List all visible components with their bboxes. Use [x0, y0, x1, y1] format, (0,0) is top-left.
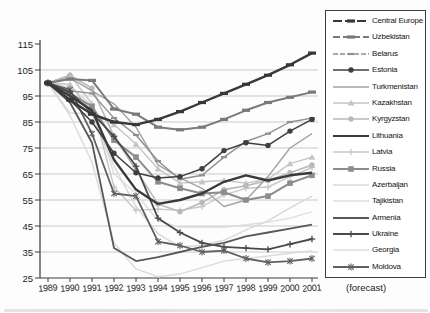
x-axis-label: 2000 — [280, 282, 300, 293]
legend-label-latvia: Latvia — [372, 148, 392, 156]
legend-item-estonia: Estonia — [332, 65, 424, 75]
y-axis-label: 105 — [17, 65, 33, 76]
x-axis-label: 1991 — [82, 282, 102, 293]
legend-label-georgia: Georgia — [372, 246, 399, 254]
legend-swatch-tajikistan — [332, 196, 370, 206]
x-axis-label: 1994 — [148, 282, 168, 293]
legend-label-central-europe: Central Europe — [372, 17, 423, 25]
x-axis-label: 1998 — [236, 282, 256, 293]
legend-label-russia: Russia — [372, 165, 395, 173]
legend-swatch-kyrgyzstan — [332, 114, 370, 124]
x-axis-label: 1989 — [38, 282, 58, 293]
legend-swatch-georgia — [332, 245, 370, 255]
legend-swatch-kazakhstan — [332, 98, 370, 108]
legend-label-armenia: Armenia — [372, 214, 400, 222]
legend-item-armenia: Armenia — [332, 213, 424, 223]
x-axis-label: 1993 — [126, 282, 146, 293]
legend-swatch-ukraine — [332, 229, 370, 239]
legend-swatch-estonia — [332, 65, 370, 75]
scan-artifact — [4, 309, 428, 312]
legend-swatch-central-europe — [332, 16, 370, 26]
y-axis-label: 55 — [22, 195, 33, 206]
legend-item-lithuania: Lithuania — [332, 131, 424, 141]
legend-label-tajikistan: Tajikistan — [372, 197, 403, 205]
legend-swatch-turkmenistan — [332, 82, 370, 92]
x-axis-label: 1990 — [60, 282, 80, 293]
legend-swatch-latvia — [332, 147, 370, 157]
legend-item-turkmenistan: Turkmenistan — [332, 82, 424, 92]
legend-swatch-uzbekistan — [332, 32, 370, 42]
legend-label-ukraine: Ukraine — [372, 230, 398, 238]
legend-swatch-russia — [332, 164, 370, 174]
legend-item-azerbaijan: Azerbaijan — [332, 180, 424, 190]
x-axis-label: 1997 — [214, 282, 234, 293]
legend-item-central-europe: Central Europe — [332, 16, 424, 26]
legend-swatch-armenia — [332, 213, 370, 223]
legend-item-kazakhstan: Kazakhstan — [332, 98, 424, 108]
legend-item-tajikistan: Tajikistan — [332, 196, 424, 206]
legend-swatch-moldova — [332, 262, 370, 272]
x-axis-label: 2001 — [302, 282, 322, 293]
legend-label-belarus: Belarus — [372, 50, 398, 58]
legend-item-moldova: Moldova — [332, 262, 424, 272]
legend-item-latvia: Latvia — [332, 147, 424, 157]
y-axis-label: 85 — [22, 117, 33, 128]
legend-label-turkmenistan: Turkmenistan — [372, 83, 418, 91]
legend: Central EuropeUzbekistanBelarusEstoniaTu… — [325, 10, 426, 278]
legend-label-estonia: Estonia — [372, 66, 397, 74]
forecast-note: (forecast) — [346, 282, 386, 293]
x-axis-label: 1995 — [170, 282, 190, 293]
scanned-chart-page: 2535455565758595105115198919901991199219… — [0, 0, 430, 313]
legend-label-kazakhstan: Kazakhstan — [372, 99, 412, 107]
legend-swatch-azerbaijan — [332, 180, 370, 190]
legend-label-azerbaijan: Azerbaijan — [372, 181, 408, 189]
y-axis-label: 95 — [22, 91, 33, 102]
legend-label-kyrgyzstan: Kyrgyzstan — [372, 115, 410, 123]
y-axis-label: 115 — [18, 39, 33, 50]
legend-item-russia: Russia — [332, 164, 424, 174]
legend-item-ukraine: Ukraine — [332, 229, 424, 239]
legend-label-lithuania: Lithuania — [372, 132, 403, 140]
legend-item-uzbekistan: Uzbekistan — [332, 32, 424, 42]
y-axis-label: 35 — [22, 247, 33, 258]
y-axis-label: 75 — [22, 143, 33, 154]
legend-item-belarus: Belarus — [332, 49, 424, 59]
y-axis-label: 65 — [22, 169, 33, 180]
x-axis-label: 1996 — [192, 282, 212, 293]
x-axis-label: 1992 — [104, 282, 124, 293]
y-axis-label: 25 — [22, 273, 33, 284]
legend-label-uzbekistan: Uzbekistan — [372, 33, 410, 41]
legend-item-kyrgyzstan: Kyrgyzstan — [332, 114, 424, 124]
legend-swatch-lithuania — [332, 131, 370, 141]
y-axis-label: 45 — [22, 221, 33, 232]
legend-item-georgia: Georgia — [332, 245, 424, 255]
x-axis-label: 1999 — [258, 282, 278, 293]
legend-label-moldova: Moldova — [372, 263, 401, 271]
legend-swatch-belarus — [332, 49, 370, 59]
